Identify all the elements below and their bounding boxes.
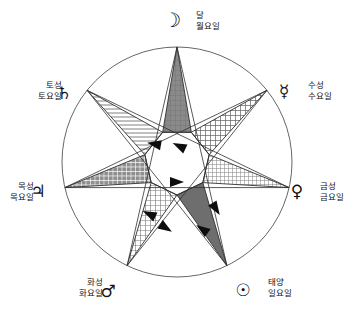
mercury-day-name: 수요일 bbox=[308, 91, 332, 101]
sun-symbol-icon: ☉ bbox=[235, 280, 250, 300]
sun-day-name: 일요일 bbox=[268, 288, 292, 298]
label-moon[interactable]: ☽달월요일 bbox=[163, 8, 220, 32]
mercury-planet-name: 수성 bbox=[308, 80, 324, 90]
mercury-symbol-icon: ☿ bbox=[279, 81, 289, 101]
heptagram-svg: ☽달월요일☿수성수요일♀금성금요일☉태양일요일♂화성화요일♃목성목요일♄토성토요… bbox=[0, 0, 354, 314]
arrow-jupiter-to-venus bbox=[170, 177, 184, 187]
label-sun[interactable]: ☉태양일요일 bbox=[235, 277, 292, 300]
chord-mars-to-moon bbox=[127, 47, 177, 266]
moon-planet-name: 달 bbox=[196, 10, 204, 20]
label-mercury[interactable]: ☿수성수요일 bbox=[279, 80, 332, 101]
jupiter-day-name: 목요일 bbox=[10, 192, 34, 202]
sun-planet-name: 태양 bbox=[268, 277, 284, 287]
venus-planet-name: 금성 bbox=[320, 181, 336, 191]
mars-planet-name: 화성 bbox=[87, 277, 103, 287]
venus-day-name: 금요일 bbox=[320, 192, 344, 202]
star-point-venus bbox=[203, 155, 289, 188]
venus-symbol-icon: ♀ bbox=[291, 181, 303, 201]
arrow-mercury-to-saturn bbox=[171, 139, 188, 154]
star-point-sun bbox=[177, 183, 227, 266]
moon-symbol-icon: ☽ bbox=[163, 8, 181, 32]
star-points-group bbox=[65, 47, 289, 266]
star-point-mars bbox=[127, 183, 177, 266]
star-point-mercury bbox=[191, 90, 267, 154]
saturn-day-name: 토요일 bbox=[38, 91, 62, 101]
mars-day-name: 화요일 bbox=[79, 288, 103, 298]
label-mars[interactable]: ♂화성화요일 bbox=[79, 277, 116, 301]
label-jupiter[interactable]: ♃목성목요일 bbox=[10, 181, 46, 202]
jupiter-planet-name: 목성 bbox=[18, 181, 34, 191]
moon-day-name: 월요일 bbox=[196, 21, 220, 31]
label-saturn[interactable]: ♄토성토요일 bbox=[38, 80, 72, 103]
saturn-planet-name: 토성 bbox=[46, 80, 62, 90]
label-venus[interactable]: ♀금성금요일 bbox=[291, 181, 344, 202]
star-point-jupiter bbox=[65, 155, 151, 188]
arrow-sun-to-mars bbox=[157, 220, 174, 236]
heptagram-figure: ☽달월요일☿수성수요일♀금성금요일☉태양일요일♂화성화요일♃목성목요일♄토성토요… bbox=[0, 0, 354, 314]
